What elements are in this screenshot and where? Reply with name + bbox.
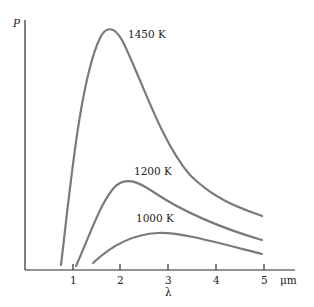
tick-label-4: 4 [213, 274, 220, 286]
tick-label-3: 3 [165, 274, 172, 286]
tick-label-1: 1 [70, 274, 77, 286]
x-axis-label: λ [165, 286, 172, 298]
series-label-1200k: 1200 K [134, 165, 172, 177]
x-ticks [73, 264, 264, 270]
unit-label: μm [280, 274, 297, 286]
blackbody-chart: 1 2 3 4 5 μm λ P 1450 K 1200 K 1000 K [0, 0, 314, 307]
series-label-1450k: 1450 K [128, 28, 166, 40]
y-axis-label: P [12, 17, 21, 29]
curve-1000k [93, 233, 262, 263]
tick-label-2: 2 [117, 274, 124, 286]
series-label-1000k: 1000 K [136, 212, 174, 224]
tick-label-5: 5 [261, 274, 268, 286]
